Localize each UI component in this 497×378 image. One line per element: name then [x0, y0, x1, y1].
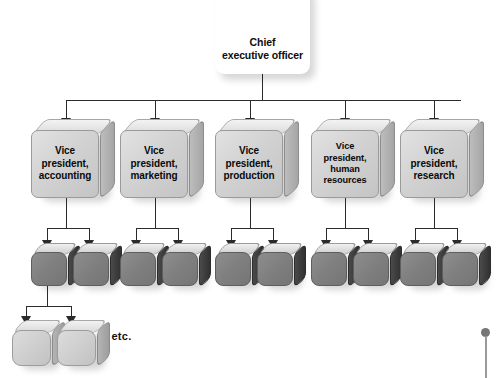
node-leaf-a[interactable] — [12, 320, 62, 368]
connector-ceo-stem — [262, 74, 263, 101]
node-subordinate-1a[interactable] — [31, 243, 78, 289]
cube-front-face: Vice president, human resources — [311, 130, 379, 198]
connector-stem-vp-2-down — [155, 195, 156, 228]
node-label: Vice president, human resources — [323, 141, 366, 187]
node-label: Vice president, accounting — [39, 145, 91, 183]
connector-stem-vp-4-down — [345, 195, 346, 228]
org-chart-diagram: Chief executive officer Vice president, … — [0, 0, 497, 378]
cube-front-face — [73, 252, 109, 286]
connector-stem-vp-3-down — [250, 195, 251, 228]
ceo-label: Chief executive officer — [222, 36, 303, 61]
node-label: Vice president, production — [223, 145, 274, 183]
cube-front-face — [12, 330, 51, 366]
node-subordinate-2a[interactable] — [120, 243, 167, 289]
connector-stem-vp-1-down — [66, 195, 67, 228]
node-label-line2: president, — [42, 158, 89, 169]
node-subordinate-2b[interactable] — [162, 243, 209, 289]
node-label-line2: president, — [324, 153, 367, 163]
node-label: Vice president, research — [411, 145, 458, 183]
node-subordinate-4a[interactable] — [311, 243, 358, 289]
cube-front-face — [57, 330, 96, 366]
connector-sub-bus-1 — [47, 228, 89, 229]
connector-sub-bus-2 — [136, 228, 178, 229]
node-label-line3: human — [330, 164, 360, 174]
cube-front-face: Vice president, marketing — [120, 130, 188, 198]
cube-front-face: Vice president, accounting — [31, 130, 99, 198]
cube-front-face: Vice president, production — [215, 130, 283, 198]
cube-front-face — [257, 252, 293, 286]
node-subordinate-3b[interactable] — [257, 243, 304, 289]
node-label-line1: Vice — [144, 145, 164, 156]
cube-front-face — [215, 252, 251, 286]
node-subordinate-4b[interactable] — [353, 243, 400, 289]
node-subordinate-5a[interactable] — [400, 243, 447, 289]
node-subordinate-1b[interactable] — [73, 243, 120, 289]
node-label-line1: Vice — [55, 145, 75, 156]
node-subordinate-5b[interactable] — [442, 243, 489, 289]
pin-icon — [481, 328, 492, 378]
ceo-label-line1: Chief — [250, 36, 276, 48]
node-label-line4: resources — [323, 175, 366, 185]
node-label-line3: research — [414, 170, 455, 181]
node-label-line1: Vice — [424, 145, 444, 156]
connector-main-bus — [66, 100, 461, 101]
node-chief-executive-officer[interactable]: Chief executive officer — [215, 0, 310, 74]
node-vice-president-accounting[interactable]: Vice president, accounting — [31, 118, 114, 198]
node-label-line3: accounting — [39, 170, 91, 181]
cube-front-face — [442, 252, 478, 286]
cube-front-face — [400, 252, 436, 286]
node-label-line2: president, — [411, 158, 458, 169]
node-vice-president-marketing[interactable]: Vice president, marketing — [120, 118, 203, 198]
ceo-label-line2: executive officer — [222, 49, 303, 61]
pin-stem — [485, 336, 487, 378]
node-label: Vice president, marketing — [131, 145, 178, 183]
cube-front-face — [311, 252, 347, 286]
node-label-line3: production — [223, 170, 274, 181]
connector-stem-vp-5-down — [434, 195, 435, 228]
node-vice-president-human-resources[interactable]: Vice president, human resources — [311, 118, 394, 198]
node-label-line2: president, — [131, 158, 178, 169]
node-label-line2: president, — [226, 158, 273, 169]
connector-sub-bus-3 — [231, 228, 273, 229]
cube-front-face — [120, 252, 156, 286]
node-leaf-b[interactable] — [57, 320, 107, 368]
cube-front-face — [353, 252, 389, 286]
cube-front-face — [31, 252, 67, 286]
cube-front-face — [162, 252, 198, 286]
node-vice-president-research[interactable]: Vice president, research — [400, 118, 483, 198]
cube-front-face: Vice president, research — [400, 130, 468, 198]
node-subordinate-3a[interactable] — [215, 243, 262, 289]
connector-sub-bus-5 — [415, 228, 457, 229]
node-label-line3: marketing — [131, 170, 178, 181]
connector-bottom-bus — [26, 306, 71, 307]
connector-sub-bus-4 — [326, 228, 368, 229]
node-label-line1: Vice — [239, 145, 259, 156]
node-label-line1: Vice — [336, 141, 354, 151]
node-vice-president-production[interactable]: Vice president, production — [215, 118, 298, 198]
